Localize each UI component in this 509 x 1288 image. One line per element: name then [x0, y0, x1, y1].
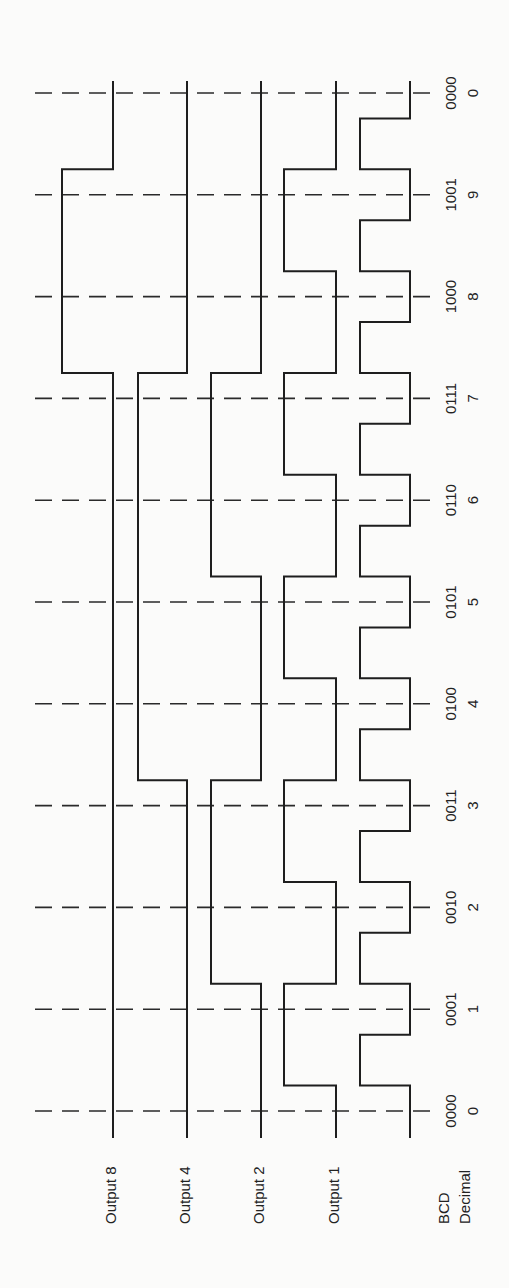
bcd-label: 0100: [442, 687, 459, 720]
bcd-label: 0101: [442, 585, 459, 618]
count-labels: 0000000011001020011301004010150110601117…: [442, 76, 481, 1127]
bcd-label: 0111: [442, 383, 459, 414]
decimal-label: 5: [464, 598, 481, 606]
signal-label-output-1: Output 1: [325, 1166, 342, 1224]
decimal-label: 2: [464, 903, 481, 911]
decimal-label: 3: [464, 801, 481, 809]
axis-label-bcd: BCD: [435, 1192, 452, 1224]
waveform-output-4: [138, 81, 187, 1138]
waveform-output-1: [284, 81, 336, 1138]
decimal-label: 0: [464, 89, 481, 97]
bcd-label: 0001: [442, 993, 459, 1026]
bcd-label: 1000: [442, 280, 459, 313]
bcd-label: 0000: [442, 1094, 459, 1127]
decimal-label: 7: [464, 394, 481, 402]
waveform-output-8: [62, 81, 113, 1138]
bcd-label: 0011: [442, 789, 459, 821]
count-gridlines: [35, 93, 438, 1111]
signal-label-output-2: Output 2: [250, 1166, 267, 1224]
waveform-output-2: [211, 81, 261, 1138]
waveforms: [62, 81, 410, 1138]
bcd-label: 0010: [442, 891, 459, 924]
timing-diagram: 0000000011001020011301004010150110601117…: [0, 0, 509, 1288]
decimal-label: 0: [464, 1107, 481, 1115]
bcd-label: 1001: [442, 178, 459, 211]
bcd-label: 0110: [442, 484, 459, 516]
signal-label-output-8: Output 8: [102, 1166, 119, 1224]
signal-labels: Output 8 Output 4 Output 2 Output 1 BCD …: [102, 1166, 473, 1224]
decimal-label: 1: [464, 1005, 481, 1013]
decimal-label: 6: [464, 496, 481, 504]
waveform-clock: [360, 81, 410, 1138]
decimal-label: 9: [464, 191, 481, 199]
bcd-label: 0000: [442, 76, 459, 109]
axis-label-decimal: Decimal: [456, 1170, 473, 1224]
decimal-label: 4: [464, 700, 481, 708]
signal-label-output-4: Output 4: [176, 1166, 193, 1224]
decimal-label: 8: [464, 292, 481, 300]
